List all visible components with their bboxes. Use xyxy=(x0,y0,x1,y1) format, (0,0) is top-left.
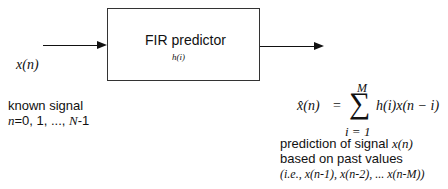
output-description-line3: (i.e., x(n-1), x(n-2), ... x(n-M)) xyxy=(280,167,425,182)
block-subtitle: h(i) xyxy=(172,52,185,62)
input-description-line1: known signal xyxy=(8,98,83,113)
equation-lhs: x̂(n) xyxy=(297,98,320,114)
N-var: N xyxy=(69,113,78,128)
equation-summand: h(i)x(n − i) xyxy=(376,98,439,114)
prediction-var: x(n) xyxy=(392,136,413,151)
equation-equals: = xyxy=(333,98,341,114)
input-description-line2: n=0, 1, ..., N-1 xyxy=(8,113,89,129)
input-signal-label: x(n) xyxy=(16,57,39,73)
range-suffix: -1 xyxy=(78,113,90,128)
block-title: FIR predictor xyxy=(145,32,226,48)
input-arrow-line xyxy=(43,45,99,46)
input-arrow-head xyxy=(97,41,107,49)
sum-symbol: ∑ xyxy=(349,88,370,118)
output-arrow-line xyxy=(260,46,316,47)
output-description-line2: based on past values xyxy=(280,151,403,166)
prediction-text: prediction of signal xyxy=(280,136,392,151)
output-description-line1: prediction of signal x(n) xyxy=(280,136,413,152)
fir-predictor-diagram: FIR predictor h(i) x(n) known signal n=0… xyxy=(0,0,448,189)
range-text: =0, 1, ..., xyxy=(15,113,70,128)
equation-lhs-text: x̂(n) xyxy=(297,98,320,113)
output-arrow-head xyxy=(314,42,324,50)
